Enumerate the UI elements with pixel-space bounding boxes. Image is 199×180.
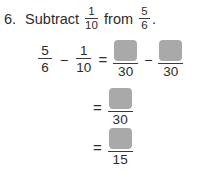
answer-box-input[interactable] — [109, 88, 132, 109]
fraction-denominator: 30 — [113, 112, 128, 127]
equals-operator: = — [98, 52, 107, 67]
equation-row-1: 5 6 − 1 10 = 30 − 30 — [36, 40, 183, 80]
problem-number: 6. — [4, 12, 16, 27]
fraction-denominator: 10 — [76, 60, 91, 75]
answer-fraction-1b: 30 — [158, 40, 183, 80]
fraction-numerator: 5 — [141, 5, 148, 17]
fraction-denominator: 30 — [118, 64, 133, 79]
fraction-denominator: 30 — [163, 64, 178, 79]
fraction-denominator: 6 — [141, 19, 148, 31]
answer-box-input[interactable] — [159, 40, 182, 61]
fraction-denominator: 6 — [41, 60, 49, 75]
instruction-middle: from — [104, 12, 133, 27]
fraction-numerator: 1 — [88, 5, 95, 17]
fraction-numerator: 5 — [41, 43, 49, 58]
answer-fraction-1a: 30 — [113, 40, 138, 80]
instruction-period: . — [152, 12, 156, 27]
fraction-denominator: 15 — [113, 152, 128, 167]
answer-fraction-2: 30 — [108, 88, 133, 128]
problem-header: 6. Subtract 1 10 from 5 6 . — [0, 6, 199, 33]
instruction-fraction-five-sixths: 5 6 — [139, 5, 150, 32]
minus-operator: − — [144, 53, 152, 67]
equals-operator: = — [93, 100, 102, 115]
answer-fraction-3: 15 — [108, 128, 133, 168]
equation-row-3: = 15 — [88, 128, 133, 168]
fraction-denominator: 10 — [85, 19, 98, 31]
equals-operator: = — [93, 140, 102, 155]
answer-box-input[interactable] — [109, 128, 132, 149]
answer-box-input[interactable] — [114, 40, 137, 61]
minuend-fraction: 5 6 — [38, 43, 52, 75]
equation-row-2: = 30 — [88, 88, 133, 128]
instruction-prefix: Subtract — [25, 12, 79, 27]
subtrahend-fraction: 1 10 — [76, 43, 91, 75]
fraction-numerator: 1 — [80, 43, 88, 58]
minus-operator: − — [60, 53, 68, 67]
instruction-fraction-one-tenth: 1 10 — [85, 5, 98, 32]
